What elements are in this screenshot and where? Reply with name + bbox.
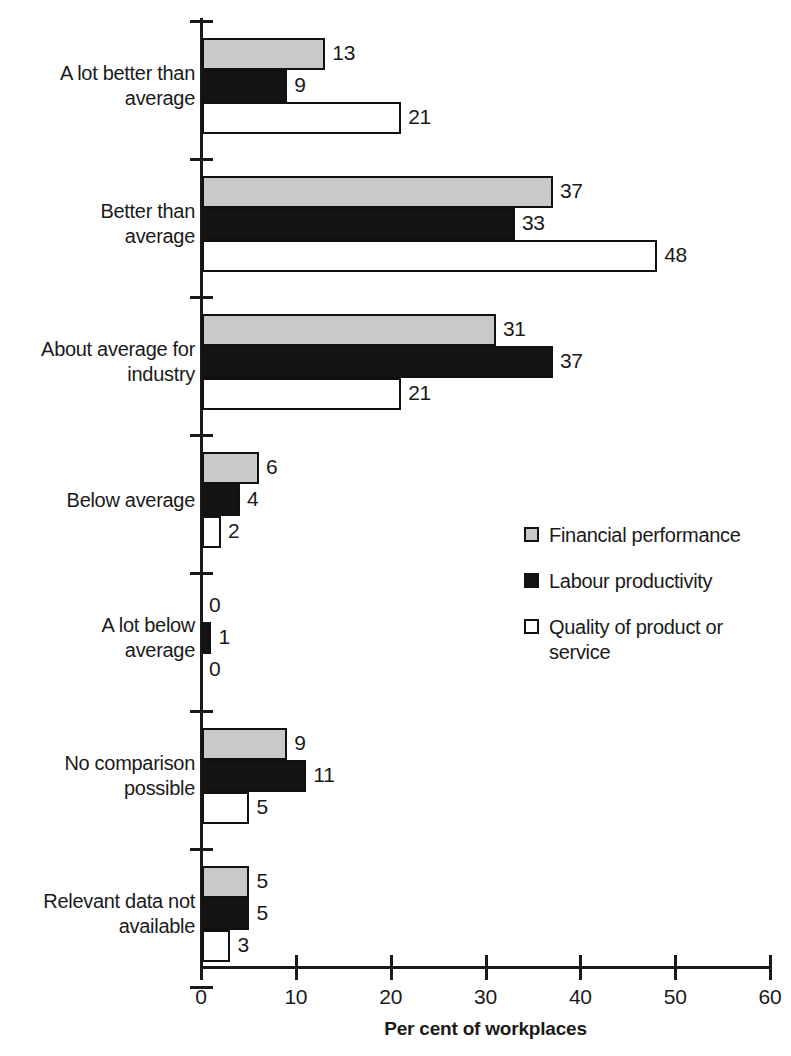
bar-value-label: 48	[664, 243, 687, 267]
bar	[202, 728, 287, 760]
legend-item[interactable]: Quality of product orservice	[524, 615, 791, 665]
bar-value-label: 4	[247, 487, 258, 511]
bar-chart: 0102030405060 Per cent of workplaces A l…	[0, 0, 791, 1056]
bar	[202, 516, 221, 548]
bar-value-label: 5	[256, 869, 267, 893]
category-label-line: average	[0, 224, 195, 249]
legend-swatch-icon	[524, 527, 539, 542]
bar	[202, 38, 325, 70]
legend-label-line: service	[549, 640, 791, 665]
category-label-line: Below average	[0, 488, 195, 513]
chart-legend: Financial performanceLabour productivity…	[524, 523, 791, 686]
category-label-line: possible	[0, 776, 195, 801]
category-label: No comparisonpossible	[0, 751, 195, 801]
value-axis-tick-label: 30	[456, 985, 516, 1009]
bar	[202, 208, 515, 240]
bar-value-label: 0	[209, 657, 220, 681]
plot-area: 0102030405060 Per cent of workplaces A l…	[0, 0, 791, 1056]
legend-label-line: Labour productivity	[549, 569, 712, 594]
bar-value-label: 5	[256, 901, 267, 925]
bar-value-label: 5	[256, 795, 267, 819]
value-axis-tick-label: 0	[171, 985, 231, 1009]
bar-value-label: 1	[218, 625, 229, 649]
legend-item[interactable]: Labour productivity	[524, 569, 791, 594]
bar-value-label: 33	[522, 211, 545, 235]
bar	[202, 70, 287, 102]
value-axis-tick-label: 60	[740, 985, 791, 1009]
value-axis-tick-label: 40	[550, 985, 610, 1009]
bar-value-label: 9	[294, 73, 305, 97]
bar	[202, 760, 306, 792]
category-group: About average forindustry313721	[0, 296, 791, 434]
category-label: Relevant data notavailable	[0, 889, 195, 939]
legend-swatch-icon	[524, 573, 539, 588]
bar-value-label: 37	[560, 349, 583, 373]
bar-value-label: 9	[294, 731, 305, 755]
category-group: Better thanaverage373348	[0, 158, 791, 296]
category-label-line: available	[0, 914, 195, 939]
bar-value-label: 6	[266, 455, 277, 479]
bar-value-label: 13	[332, 41, 355, 65]
bar	[202, 898, 249, 930]
category-label: Better thanaverage	[0, 199, 195, 249]
bar	[202, 792, 249, 824]
bar	[202, 452, 259, 484]
bar	[202, 240, 657, 272]
category-label-line: average	[0, 638, 195, 663]
category-label-line: No comparison	[0, 751, 195, 776]
bar-value-label: 31	[503, 317, 526, 341]
category-label-line: A lot below	[0, 613, 195, 638]
category-label-line: Better than	[0, 199, 195, 224]
bar-value-label: 21	[408, 381, 431, 405]
legend-label-line: Financial performance	[549, 523, 741, 548]
bar	[202, 314, 496, 346]
legend-swatch-icon	[524, 619, 539, 634]
bar-value-label: 2	[228, 519, 239, 543]
bar	[202, 484, 240, 516]
bar	[202, 866, 249, 898]
legend-item[interactable]: Financial performance	[524, 523, 791, 548]
x-axis-title: Per cent of workplaces	[200, 1018, 771, 1040]
category-label-line: Relevant data not	[0, 889, 195, 914]
bar-value-label: 11	[313, 763, 334, 787]
bar-value-label: 37	[560, 179, 583, 203]
category-label: About average forindustry	[0, 337, 195, 387]
bar-value-label: 0	[209, 593, 220, 617]
category-group: No comparisonpossible9115	[0, 710, 791, 848]
category-group: A lot better thanaverage13921	[0, 20, 791, 158]
legend-label-line: Quality of product or	[549, 615, 723, 640]
category-label-line: average	[0, 86, 195, 111]
category-group: Relevant data notavailable553	[0, 848, 791, 986]
bar	[202, 930, 230, 962]
category-label: A lot better thanaverage	[0, 61, 195, 111]
bar-value-label: 21	[408, 105, 431, 129]
value-axis-tick-label: 10	[266, 985, 326, 1009]
category-label-line: About average for	[0, 337, 195, 362]
bar	[202, 102, 401, 134]
category-label-line: industry	[0, 362, 195, 387]
bar	[202, 176, 553, 208]
category-label-line: A lot better than	[0, 61, 195, 86]
bar	[202, 378, 401, 410]
value-axis-tick-label: 20	[361, 985, 421, 1009]
category-label: Below average	[0, 488, 195, 513]
bar	[202, 622, 211, 654]
category-label: A lot belowaverage	[0, 613, 195, 663]
value-axis-tick-label: 50	[645, 985, 705, 1009]
bar-value-label: 3	[237, 933, 248, 957]
bar	[202, 346, 553, 378]
